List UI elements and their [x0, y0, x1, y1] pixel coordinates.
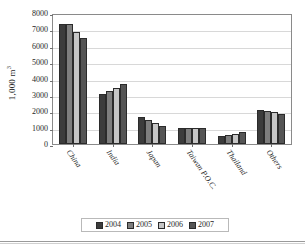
bar — [178, 128, 185, 144]
bar-group — [132, 15, 172, 144]
y-axis-tick-label: 2000 — [32, 108, 48, 116]
legend-label: 2005 — [136, 221, 152, 229]
page-divider-rule — [0, 241, 305, 242]
y-axis-title-text: 1,000 m — [7, 69, 17, 100]
x-axis-label-slot: Others — [252, 146, 292, 208]
bar-group — [172, 15, 212, 144]
legend-swatch-icon — [96, 222, 103, 229]
bar — [159, 126, 166, 144]
legend-item[interactable]: 2007 — [189, 221, 214, 229]
y-axis-tick-label: 5000 — [32, 59, 48, 67]
bar-groups — [53, 15, 291, 144]
legend-swatch-icon — [189, 222, 196, 229]
bar — [199, 128, 206, 144]
y-axis-title-superscript: 3 — [5, 66, 12, 69]
bar — [278, 114, 285, 144]
page-divider-rule-shadow — [0, 243, 305, 244]
x-axis-category-label: Japan — [145, 148, 164, 169]
legend-swatch-icon — [127, 222, 134, 229]
legend-label: 2007 — [198, 221, 214, 229]
legend-swatch-icon — [158, 222, 165, 229]
x-axis-label-slot: Taiwan P.O.C. — [172, 146, 212, 208]
chart-legend: 2004200520062007 — [81, 218, 229, 232]
bar-group — [53, 15, 93, 144]
bar-chart-figure: 1,000 m3 8000700060005000400030002000100… — [0, 0, 305, 247]
legend-label: 2004 — [105, 221, 121, 229]
y-axis-tick-labels: 800070006000500040003000200010000 — [20, 10, 50, 150]
bar — [264, 111, 271, 144]
y-axis-tick-label: 8000 — [32, 10, 48, 18]
bar — [120, 84, 127, 144]
x-axis-category-label: China — [65, 148, 84, 169]
x-axis-category-label: Thailand — [225, 148, 249, 177]
bar — [80, 38, 87, 144]
bar — [113, 88, 120, 144]
x-axis-category-labels: ChinaIndiaJapanTaiwan P.O.C.ThailandOthe… — [52, 146, 292, 208]
bar — [106, 91, 113, 144]
legend-item[interactable]: 2005 — [127, 221, 152, 229]
legend-label: 2006 — [167, 221, 183, 229]
bar — [138, 117, 145, 144]
x-axis-category-label: India — [105, 148, 122, 167]
y-axis-tick-label: 4000 — [32, 76, 48, 84]
bar — [59, 24, 66, 144]
y-axis-tick-label: 1000 — [32, 125, 48, 133]
legend-item[interactable]: 2004 — [96, 221, 121, 229]
bar — [192, 128, 199, 144]
bar — [271, 112, 278, 144]
bar — [152, 123, 159, 144]
bar — [232, 134, 239, 144]
x-axis-label-slot: China — [52, 146, 92, 208]
y-axis-tick-label: 7000 — [32, 26, 48, 34]
x-axis-category-label: Others — [265, 148, 285, 171]
y-axis-title: 1,000 m3 — [2, 46, 20, 120]
bar-group — [251, 15, 291, 144]
bar — [185, 128, 192, 144]
x-axis-label-slot: India — [92, 146, 132, 208]
x-axis-label-slot: Thailand — [212, 146, 252, 208]
bar — [66, 24, 73, 144]
bar — [225, 135, 232, 144]
y-axis-tick-label: 3000 — [32, 92, 48, 100]
bar — [218, 136, 225, 144]
bar — [99, 94, 106, 144]
legend-item[interactable]: 2006 — [158, 221, 183, 229]
plot-area — [52, 14, 292, 145]
bar — [239, 132, 246, 144]
y-axis-tick-label: 0 — [44, 141, 48, 149]
y-axis-tick-label: 6000 — [32, 43, 48, 51]
x-axis-label-slot: Japan — [132, 146, 172, 208]
bar — [145, 120, 152, 144]
bar — [257, 110, 264, 144]
bar-group — [212, 15, 252, 144]
bar-group — [93, 15, 133, 144]
bar — [73, 32, 80, 144]
